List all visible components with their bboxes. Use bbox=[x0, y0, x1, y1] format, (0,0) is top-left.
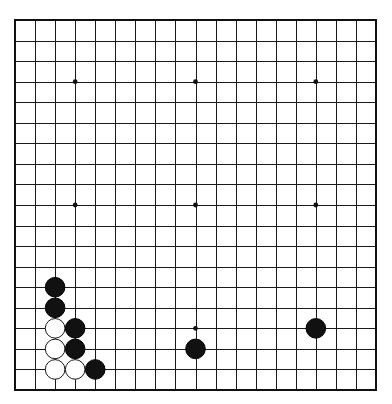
board-intersection[interactable] bbox=[105, 174, 125, 195]
board-intersection[interactable] bbox=[125, 215, 145, 236]
board-intersection[interactable] bbox=[5, 133, 25, 154]
board-intersection[interactable] bbox=[185, 10, 205, 31]
board-intersection[interactable] bbox=[366, 256, 386, 277]
board-intersection[interactable] bbox=[206, 236, 226, 257]
board-intersection[interactable] bbox=[246, 10, 266, 31]
board-intersection[interactable] bbox=[85, 92, 105, 113]
board-intersection[interactable] bbox=[326, 113, 346, 134]
board-intersection[interactable] bbox=[65, 215, 85, 236]
board-intersection[interactable] bbox=[145, 277, 165, 298]
board-intersection[interactable] bbox=[5, 339, 25, 360]
board-intersection[interactable] bbox=[286, 10, 306, 31]
board-intersection[interactable] bbox=[145, 256, 165, 277]
board-intersection[interactable] bbox=[346, 339, 366, 360]
board-intersection[interactable] bbox=[85, 30, 105, 51]
board-intersection[interactable] bbox=[266, 51, 286, 72]
board-intersection[interactable] bbox=[226, 298, 246, 319]
board-intersection[interactable] bbox=[326, 380, 346, 401]
board-intersection[interactable] bbox=[105, 298, 125, 319]
board-intersection[interactable] bbox=[306, 298, 326, 319]
board-intersection[interactable] bbox=[105, 215, 125, 236]
board-intersection[interactable] bbox=[165, 236, 185, 257]
board-intersection[interactable] bbox=[306, 256, 326, 277]
board-intersection[interactable] bbox=[366, 71, 386, 92]
board-intersection[interactable] bbox=[346, 195, 366, 216]
board-intersection[interactable] bbox=[85, 51, 105, 72]
board-intersection[interactable] bbox=[165, 256, 185, 277]
board-intersection[interactable] bbox=[366, 174, 386, 195]
board-intersection[interactable] bbox=[266, 277, 286, 298]
board-intersection[interactable] bbox=[246, 92, 266, 113]
board-intersection[interactable] bbox=[185, 30, 205, 51]
board-intersection[interactable] bbox=[246, 195, 266, 216]
board-intersection[interactable] bbox=[266, 359, 286, 380]
board-intersection[interactable] bbox=[5, 236, 25, 257]
board-intersection[interactable] bbox=[45, 195, 65, 216]
board-intersection[interactable] bbox=[145, 10, 165, 31]
board-intersection[interactable] bbox=[85, 174, 105, 195]
board-intersection[interactable] bbox=[45, 359, 65, 380]
board-intersection[interactable] bbox=[65, 277, 85, 298]
board-intersection[interactable] bbox=[246, 256, 266, 277]
board-intersection[interactable] bbox=[306, 236, 326, 257]
board-intersection[interactable] bbox=[165, 195, 185, 216]
board-intersection[interactable] bbox=[125, 174, 145, 195]
board-intersection[interactable] bbox=[286, 174, 306, 195]
board-intersection[interactable] bbox=[45, 318, 65, 339]
board-intersection[interactable] bbox=[45, 10, 65, 31]
board-intersection[interactable] bbox=[206, 174, 226, 195]
board-intersection[interactable] bbox=[286, 133, 306, 154]
board-intersection[interactable] bbox=[45, 92, 65, 113]
board-intersection[interactable] bbox=[45, 154, 65, 175]
board-intersection[interactable] bbox=[65, 51, 85, 72]
board-intersection[interactable] bbox=[5, 30, 25, 51]
board-intersection[interactable] bbox=[65, 154, 85, 175]
board-intersection[interactable] bbox=[25, 92, 45, 113]
board-intersection[interactable] bbox=[25, 51, 45, 72]
board-intersection[interactable] bbox=[5, 359, 25, 380]
board-intersection[interactable] bbox=[25, 71, 45, 92]
board-intersection[interactable] bbox=[266, 174, 286, 195]
board-intersection[interactable] bbox=[5, 298, 25, 319]
board-intersection[interactable] bbox=[145, 359, 165, 380]
board-intersection[interactable] bbox=[145, 195, 165, 216]
board-intersection[interactable] bbox=[45, 71, 65, 92]
board-intersection[interactable] bbox=[226, 277, 246, 298]
board-intersection[interactable] bbox=[366, 339, 386, 360]
board-intersection[interactable] bbox=[346, 277, 366, 298]
board-intersection[interactable] bbox=[206, 71, 226, 92]
board-intersection[interactable] bbox=[226, 195, 246, 216]
board-intersection[interactable] bbox=[306, 51, 326, 72]
board-intersection[interactable] bbox=[85, 113, 105, 134]
board-intersection[interactable] bbox=[185, 236, 205, 257]
board-intersection[interactable] bbox=[185, 359, 205, 380]
board-intersection[interactable] bbox=[346, 215, 366, 236]
board-intersection[interactable] bbox=[246, 298, 266, 319]
board-intersection[interactable] bbox=[25, 195, 45, 216]
intersection-points[interactable] bbox=[5, 10, 386, 401]
board-intersection[interactable] bbox=[306, 71, 326, 92]
board-intersection[interactable] bbox=[346, 359, 366, 380]
board-intersection[interactable] bbox=[246, 380, 266, 401]
board-intersection[interactable] bbox=[65, 236, 85, 257]
board-intersection[interactable] bbox=[366, 380, 386, 401]
board-intersection[interactable] bbox=[206, 256, 226, 277]
board-intersection[interactable] bbox=[266, 92, 286, 113]
board-intersection[interactable] bbox=[25, 30, 45, 51]
board-intersection[interactable] bbox=[165, 154, 185, 175]
board-intersection[interactable] bbox=[5, 380, 25, 401]
board-intersection[interactable] bbox=[105, 51, 125, 72]
board-intersection[interactable] bbox=[266, 71, 286, 92]
board-intersection[interactable] bbox=[206, 10, 226, 31]
board-intersection[interactable] bbox=[85, 277, 105, 298]
board-intersection[interactable] bbox=[286, 92, 306, 113]
board-intersection[interactable] bbox=[45, 236, 65, 257]
board-intersection[interactable] bbox=[246, 339, 266, 360]
board-intersection[interactable] bbox=[306, 195, 326, 216]
board-intersection[interactable] bbox=[45, 298, 65, 319]
board-intersection[interactable] bbox=[266, 318, 286, 339]
board-intersection[interactable] bbox=[326, 236, 346, 257]
board-intersection[interactable] bbox=[125, 10, 145, 31]
board-intersection[interactable] bbox=[65, 174, 85, 195]
board-intersection[interactable] bbox=[165, 133, 185, 154]
